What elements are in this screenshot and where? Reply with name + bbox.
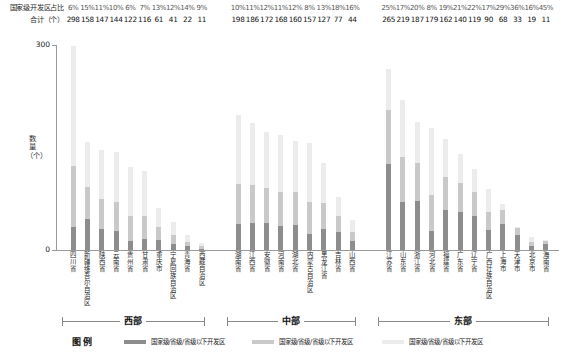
bar[interactable]: [142, 171, 147, 250]
bar-segment-provincial: [307, 202, 312, 234]
bar-segment-sub-provincial: [386, 69, 391, 110]
header-row-total: 2981581471441221166141221119818617216816…: [0, 14, 561, 26]
region-bracket-cap-right: [548, 317, 549, 326]
bar-segment-sub-provincial: [443, 139, 448, 177]
bar-segment-national: [236, 224, 241, 250]
bar[interactable]: [128, 167, 133, 250]
bar-segment-sub-provincial: [515, 227, 520, 228]
x-axis-label: 山西省: [348, 252, 357, 273]
bar-segment-sub-provincial: [99, 150, 104, 199]
bar[interactable]: [443, 139, 448, 250]
bar[interactable]: [114, 152, 119, 250]
bar[interactable]: [472, 169, 477, 250]
bar-segment-national: [156, 240, 161, 250]
bar-segment-sub-provincial: [293, 141, 298, 193]
bar-segment-sub-provincial: [171, 222, 176, 235]
bar[interactable]: [85, 142, 90, 250]
bar-segment-national: [99, 229, 104, 250]
y-axis-label: 数量（个）: [26, 135, 38, 160]
bar-segment-provincial: [350, 232, 355, 241]
bar[interactable]: [264, 132, 269, 250]
bar[interactable]: [236, 115, 241, 250]
bar-segment-sub-provincial: [543, 240, 548, 241]
bar-segment-provincial: [429, 195, 434, 232]
x-axis-label: 西藏自治区: [197, 252, 206, 287]
bar-segment-national: [429, 231, 434, 250]
legend-label-1: 国家级/省级/省级以下开发区: [279, 336, 353, 348]
bar[interactable]: [336, 197, 341, 250]
bar[interactable]: [250, 123, 255, 250]
header-row-percent: 6%15%11%10%6%7%13%12%14%9%10%11%12%11%12…: [0, 2, 561, 14]
bar-segment-national: [199, 249, 204, 250]
bar[interactable]: [171, 222, 176, 250]
x-axis-label: 宁夏回族自治区: [169, 252, 178, 300]
bar-segment-national: [486, 230, 491, 250]
bar[interactable]: [486, 189, 491, 251]
bar-segment-sub-provincial: [264, 132, 269, 187]
bar[interactable]: [543, 242, 548, 250]
bar[interactable]: [307, 143, 312, 250]
bar-segment-national: [515, 235, 520, 250]
bar-segment-sub-provincial: [458, 154, 463, 183]
x-axis-label: 河南省: [276, 252, 285, 273]
bar[interactable]: [293, 141, 298, 250]
x-axis-label: 黑龙江省: [319, 252, 328, 280]
x-axis-label: 湖北省: [291, 252, 300, 273]
region-bracket-cap-left: [62, 317, 63, 326]
bar-segment-national: [128, 241, 133, 251]
legend-swatch-1: [252, 340, 274, 344]
region-bracket-cap-left: [227, 317, 228, 326]
bar[interactable]: [386, 69, 391, 250]
bar[interactable]: [415, 122, 420, 250]
bar-segment-sub-provincial: [128, 167, 133, 216]
x-axis-label: 浙江省: [413, 252, 422, 273]
header-table: 国家级开发区占比 合计（个） 6%15%11%10%6%7%13%12%14%9…: [0, 0, 561, 34]
bar[interactable]: [185, 235, 190, 250]
bar-segment-provincial: [156, 227, 161, 240]
bar-segment-provincial: [321, 203, 326, 229]
x-axis-label: 吉林省: [334, 252, 343, 273]
legend-swatch-0: [124, 340, 146, 344]
bar-segment-sub-provincial: [278, 135, 283, 191]
bar[interactable]: [400, 100, 405, 250]
chart-legend: 图例 国家级/省级/省级以下开发区 国家级/省级/省级以下开发区 国家级/省级/…: [0, 334, 561, 352]
x-axis-label: 北京市: [527, 252, 536, 273]
legend-swatch-2: [382, 340, 404, 344]
bar[interactable]: [529, 237, 534, 250]
bar-segment-provincial: [71, 166, 76, 227]
x-axis-label: 江苏省: [384, 252, 393, 273]
bar[interactable]: [321, 163, 326, 250]
bar[interactable]: [199, 242, 204, 250]
bar-segment-sub-provincial: [429, 128, 434, 195]
bar[interactable]: [429, 128, 434, 250]
region-bracket: 东部: [378, 313, 549, 329]
bar-segment-provincial: [171, 235, 176, 243]
x-axis-label: 云南省: [112, 252, 121, 273]
bar-segment-provincial: [529, 242, 534, 246]
bar[interactable]: [278, 135, 283, 250]
bar-segment-sub-provincial: [185, 235, 190, 242]
bar-segment-provincial: [486, 212, 491, 230]
bar-segment-national: [85, 219, 90, 250]
bar[interactable]: [99, 150, 104, 250]
bar-segment-provincial: [400, 157, 405, 202]
bar-segment-sub-provincial: [199, 243, 204, 247]
bar-segment-national: [350, 241, 355, 250]
bar-segment-provincial: [443, 177, 448, 210]
bar[interactable]: [156, 208, 161, 250]
bar[interactable]: [515, 227, 520, 250]
bar[interactable]: [71, 46, 76, 250]
x-axis-label: 四川省: [69, 252, 78, 273]
bar[interactable]: [458, 154, 463, 250]
bar[interactable]: [350, 220, 355, 250]
bar-segment-national: [500, 224, 505, 250]
bar-segment-sub-provincial: [336, 197, 341, 216]
bar-segment-provincial: [128, 216, 133, 241]
x-axis-label: 安徽省: [262, 252, 271, 273]
bar[interactable]: [500, 204, 505, 250]
bar-segment-provincial: [185, 242, 190, 247]
x-axis-label: 辽宁省: [470, 252, 479, 273]
bar-segment-sub-provincial: [85, 142, 90, 187]
x-axis-label: 重庆市: [154, 252, 163, 273]
bar-segment-provincial: [458, 183, 463, 212]
